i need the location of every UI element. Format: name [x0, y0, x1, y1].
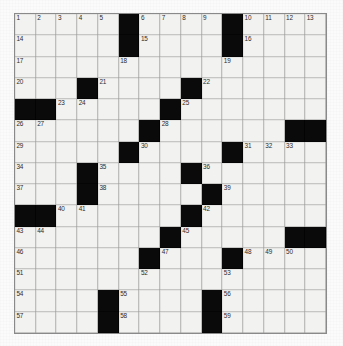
grid-cell[interactable]: [36, 290, 57, 311]
grid-cell[interactable]: [119, 227, 140, 248]
grid-cell[interactable]: [202, 120, 223, 141]
grid-cell[interactable]: [56, 142, 77, 163]
grid-cell[interactable]: 58: [119, 312, 140, 333]
grid-cell[interactable]: [305, 35, 326, 56]
grid-cell[interactable]: [119, 78, 140, 99]
grid-cell[interactable]: 55: [119, 290, 140, 311]
grid-cell[interactable]: [285, 269, 306, 290]
grid-cell[interactable]: [56, 78, 77, 99]
grid-cell[interactable]: [243, 78, 264, 99]
grid-cell[interactable]: [36, 269, 57, 290]
grid-cell[interactable]: [264, 57, 285, 78]
grid-cell[interactable]: [222, 120, 243, 141]
grid-cell[interactable]: 25: [181, 99, 202, 120]
grid-cell[interactable]: [98, 57, 119, 78]
grid-cell[interactable]: [160, 184, 181, 205]
grid-cell[interactable]: [243, 205, 264, 226]
grid-cell[interactable]: [139, 227, 160, 248]
grid-cell[interactable]: [160, 205, 181, 226]
grid-cell[interactable]: 5: [98, 14, 119, 35]
grid-cell[interactable]: 46: [15, 248, 36, 269]
grid-cell[interactable]: [98, 205, 119, 226]
grid-cell[interactable]: [139, 184, 160, 205]
grid-cell[interactable]: [160, 312, 181, 333]
grid-cell[interactable]: 26: [15, 120, 36, 141]
grid-cell[interactable]: [77, 142, 98, 163]
grid-cell[interactable]: 30: [139, 142, 160, 163]
grid-cell[interactable]: 3: [56, 14, 77, 35]
grid-cell[interactable]: [285, 57, 306, 78]
grid-cell[interactable]: 21: [98, 78, 119, 99]
grid-cell[interactable]: 34: [15, 163, 36, 184]
grid-cell[interactable]: [139, 163, 160, 184]
grid-cell[interactable]: [56, 57, 77, 78]
grid-cell[interactable]: [160, 35, 181, 56]
grid-cell[interactable]: [264, 312, 285, 333]
grid-cell[interactable]: [305, 269, 326, 290]
grid-cell[interactable]: 43: [15, 227, 36, 248]
grid-cell[interactable]: [264, 205, 285, 226]
grid-cell[interactable]: [77, 57, 98, 78]
grid-cell[interactable]: [77, 290, 98, 311]
grid-cell[interactable]: 11: [264, 14, 285, 35]
grid-cell[interactable]: 50: [285, 248, 306, 269]
grid-cell[interactable]: [264, 163, 285, 184]
grid-cell[interactable]: [243, 290, 264, 311]
grid-cell[interactable]: 51: [15, 269, 36, 290]
grid-cell[interactable]: [98, 99, 119, 120]
grid-cell[interactable]: [243, 57, 264, 78]
grid-cell[interactable]: [243, 269, 264, 290]
grid-cell[interactable]: [181, 248, 202, 269]
grid-cell[interactable]: [202, 269, 223, 290]
grid-cell[interactable]: [77, 269, 98, 290]
grid-cell[interactable]: [222, 163, 243, 184]
grid-cell[interactable]: 28: [160, 120, 181, 141]
grid-cell[interactable]: [264, 35, 285, 56]
grid-cell[interactable]: [36, 142, 57, 163]
grid-cell[interactable]: [98, 120, 119, 141]
grid-cell[interactable]: [181, 312, 202, 333]
grid-cell[interactable]: [285, 163, 306, 184]
grid-cell[interactable]: [119, 248, 140, 269]
grid-cell[interactable]: [36, 312, 57, 333]
grid-cell[interactable]: [222, 99, 243, 120]
grid-cell[interactable]: [160, 163, 181, 184]
grid-cell[interactable]: [77, 120, 98, 141]
grid-cell[interactable]: 12: [285, 14, 306, 35]
grid-cell[interactable]: [36, 184, 57, 205]
grid-cell[interactable]: 23: [56, 99, 77, 120]
grid-cell[interactable]: 59: [222, 312, 243, 333]
grid-cell[interactable]: 17: [15, 57, 36, 78]
grid-cell[interactable]: [181, 57, 202, 78]
grid-cell[interactable]: [160, 290, 181, 311]
grid-cell[interactable]: 35: [98, 163, 119, 184]
grid-cell[interactable]: 24: [77, 99, 98, 120]
grid-cell[interactable]: [264, 78, 285, 99]
grid-cell[interactable]: [56, 312, 77, 333]
grid-cell[interactable]: [77, 227, 98, 248]
grid-cell[interactable]: [56, 290, 77, 311]
grid-cell[interactable]: [160, 78, 181, 99]
grid-cell[interactable]: 13: [305, 14, 326, 35]
grid-cell[interactable]: [181, 290, 202, 311]
grid-cell[interactable]: 41: [77, 205, 98, 226]
grid-cell[interactable]: [202, 248, 223, 269]
grid-cell[interactable]: [36, 35, 57, 56]
grid-cell[interactable]: [264, 227, 285, 248]
grid-cell[interactable]: 29: [15, 142, 36, 163]
grid-cell[interactable]: [181, 142, 202, 163]
grid-cell[interactable]: [160, 142, 181, 163]
grid-cell[interactable]: [36, 248, 57, 269]
grid-cell[interactable]: 42: [202, 205, 223, 226]
grid-cell[interactable]: [119, 120, 140, 141]
grid-cell[interactable]: 31: [243, 142, 264, 163]
grid-cell[interactable]: [264, 269, 285, 290]
grid-cell[interactable]: [160, 269, 181, 290]
grid-cell[interactable]: [139, 57, 160, 78]
crossword-grid[interactable]: 1234567891011121314151617181920212223242…: [14, 13, 327, 334]
grid-cell[interactable]: [98, 248, 119, 269]
grid-cell[interactable]: 39: [222, 184, 243, 205]
grid-cell[interactable]: [243, 184, 264, 205]
grid-cell[interactable]: [98, 227, 119, 248]
grid-cell[interactable]: 56: [222, 290, 243, 311]
